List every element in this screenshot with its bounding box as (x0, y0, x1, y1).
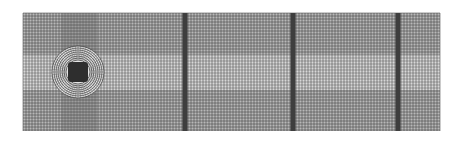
cylinder-ogrid (52, 46, 104, 98)
mesh-figure (0, 0, 458, 142)
cylinder-core (68, 62, 88, 82)
